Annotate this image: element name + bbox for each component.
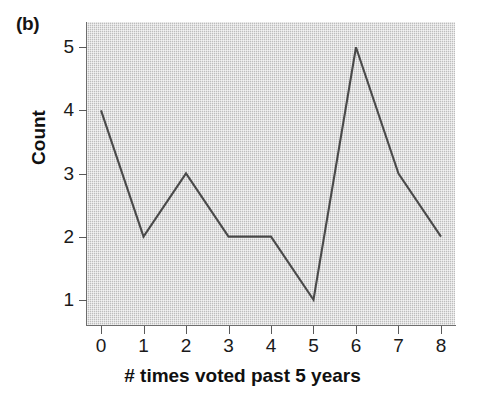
x-tick-label: 6 — [343, 336, 369, 355]
x-tick-label: 2 — [173, 336, 199, 355]
x-tick-mark — [441, 326, 442, 334]
x-tick-mark — [313, 326, 314, 334]
x-tick-label: 8 — [428, 336, 454, 355]
x-tick-mark — [144, 326, 145, 334]
data-series-svg — [87, 22, 455, 325]
y-tick-mark — [79, 174, 87, 175]
y-tick-label: 4 — [48, 100, 74, 119]
x-tick-mark — [356, 326, 357, 334]
x-tick-label: 5 — [300, 336, 326, 355]
x-tick-mark — [101, 326, 102, 334]
figure-panel-b: (b) 12345 012345678 Count # times voted … — [0, 0, 485, 401]
count-line-series — [101, 47, 441, 300]
x-tick-mark — [271, 326, 272, 334]
y-tick-label: 1 — [48, 290, 74, 309]
y-tick-mark — [79, 47, 87, 48]
x-tick-mark — [398, 326, 399, 334]
y-tick-mark — [79, 300, 87, 301]
x-tick-mark — [186, 326, 187, 334]
y-tick-mark — [79, 110, 87, 111]
plot-area — [87, 22, 455, 325]
x-tick-label: 4 — [258, 336, 284, 355]
panel-label: (b) — [16, 14, 39, 33]
y-axis-title: Count — [29, 78, 48, 198]
y-tick-label: 2 — [48, 227, 74, 246]
x-tick-label: 3 — [216, 336, 242, 355]
x-tick-label: 0 — [88, 336, 114, 355]
x-tick-label: 7 — [385, 336, 411, 355]
y-tick-label: 3 — [48, 164, 74, 183]
x-axis-title: # times voted past 5 years — [0, 366, 485, 385]
x-tick-label: 1 — [131, 336, 157, 355]
y-tick-label: 5 — [48, 37, 74, 56]
y-tick-mark — [79, 237, 87, 238]
x-tick-mark — [229, 326, 230, 334]
